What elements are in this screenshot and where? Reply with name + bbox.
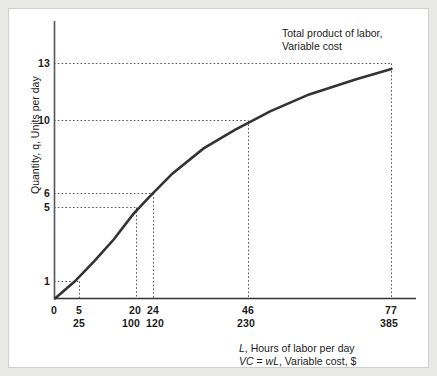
x-tick-label-cost-120: 120 <box>146 317 164 329</box>
curve-annotation-line1: Total product of labor, <box>282 27 382 40</box>
y-tick-label-5: 5 <box>44 201 50 213</box>
x-tick-label-cost-100: 100 <box>122 317 140 329</box>
x-tick-label-hours-46: 46 <box>242 304 254 316</box>
y-tick-label-1: 1 <box>44 275 50 287</box>
figure-card: Quantity, q, Units per day 13 10 6 5 1 0… <box>8 8 429 368</box>
y-tick-label-13: 13 <box>38 57 50 69</box>
x-tick-label-hours-77: 77 <box>385 304 397 316</box>
x-tick-label-hours-20: 20 <box>129 304 141 316</box>
y-tick-label-10: 10 <box>38 114 50 126</box>
x-tick-label-hours-24: 24 <box>147 304 159 316</box>
x-tick-label-origin: 0 <box>51 304 57 316</box>
x-axis-title-cost-symbol: VC <box>239 355 254 367</box>
x-axis-title-hours: L, Hours of labor per day <box>239 342 355 354</box>
y-axis-title: Quantity, q, Units per day <box>29 76 41 194</box>
x-axis-title-cost: VC = wL, Variable cost, $ <box>239 355 356 367</box>
total-product-curve <box>55 69 391 298</box>
chart-plot-area <box>9 9 430 369</box>
curve-annotation-line2: Variable cost <box>282 40 382 53</box>
curve-annotation: Total product of labor, Variable cost <box>282 27 382 53</box>
x-axis-title-cost-wl: wL <box>266 355 279 367</box>
x-tick-label-hours-5: 5 <box>76 304 82 316</box>
x-axis-title-hours-text: , Hours of labor per day <box>245 342 355 354</box>
chart-svg <box>9 9 430 369</box>
x-tick-label-cost-25: 25 <box>73 317 85 329</box>
x-axis-title-cost-text: , Variable cost, $ <box>279 355 356 367</box>
x-axis-title-cost-eq: = <box>254 355 266 367</box>
x-tick-label-cost-385: 385 <box>380 317 398 329</box>
x-tick-label-cost-230: 230 <box>237 317 255 329</box>
y-tick-label-6: 6 <box>44 187 50 199</box>
